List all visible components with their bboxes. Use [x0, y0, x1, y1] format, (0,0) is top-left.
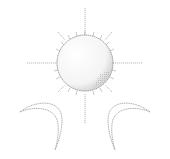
sun-icon — [57, 35, 113, 91]
illustration — [0, 0, 170, 159]
sun-moons-drawing — [0, 0, 170, 159]
right-crescent-moon-icon — [108, 103, 150, 150]
left-crescent-moon-icon — [20, 103, 62, 150]
